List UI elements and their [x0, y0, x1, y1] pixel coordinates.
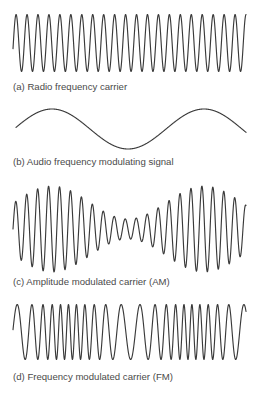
audio-modulating-signal-wave: [16, 109, 246, 149]
waveform-canvas: [0, 0, 270, 395]
caption-frequency-modulated: (d) Frequency modulated carrier (FM): [13, 372, 173, 382]
modulation-figure: (a) Radio frequency carrier (b) Audio fr…: [0, 0, 270, 395]
radio-frequency-carrier-wave: [13, 15, 246, 72]
amplitude-modulated-wave: [13, 186, 246, 272]
caption-audio-modulating-signal: (b) Audio frequency modulating signal: [13, 157, 174, 167]
caption-amplitude-modulated: (c) Amplitude modulated carrier (AM): [13, 277, 170, 287]
caption-radio-frequency-carrier: (a) Radio frequency carrier: [13, 82, 127, 92]
frequency-modulated-wave: [13, 305, 246, 360]
